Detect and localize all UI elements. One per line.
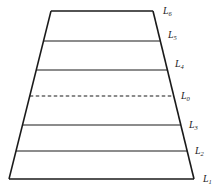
level-label-l3: L3: [188, 119, 199, 131]
level-label-l5: L5: [167, 29, 178, 41]
level-label-l6: L6: [162, 5, 173, 17]
level-label-subscript: 1: [209, 178, 212, 185]
level-label-subscript: 4: [181, 63, 185, 70]
level-label-subscript: 6: [169, 10, 173, 17]
level-label-subscript: 2: [201, 150, 205, 157]
level-label-subscript: 5: [174, 34, 178, 41]
left-side-edge: [9, 11, 51, 179]
level-label-l1: L1: [202, 173, 212, 185]
level-label-l4: L4: [174, 58, 185, 70]
trapezoid-diagram: L6L5L4L0L3L2L1: [0, 0, 215, 189]
level-label-l0: L0: [180, 90, 191, 102]
level-label-subscript: 0: [187, 95, 191, 102]
level-label-l2: L2: [194, 145, 205, 157]
level-label-subscript: 3: [194, 124, 199, 131]
